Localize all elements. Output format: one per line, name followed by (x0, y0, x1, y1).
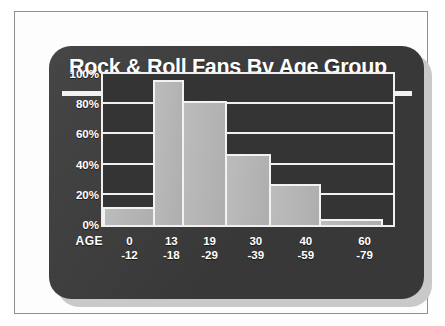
x-axis-title: AGE (55, 234, 103, 248)
y-axis-tick-label: 20% (53, 189, 99, 201)
bar (319, 219, 383, 225)
y-axis-tick-label: 100% (53, 68, 99, 80)
bar (103, 207, 155, 225)
x-category-line-1: 19 (203, 235, 216, 247)
x-category-line-1: 60 (358, 235, 371, 247)
x-category-line-2: -79 (332, 248, 397, 262)
bar (225, 154, 271, 225)
y-axis: 0%20%40%60%80%100% (49, 72, 99, 227)
x-category-line-2: -18 (156, 248, 187, 262)
x-category-line-2: -39 (232, 248, 279, 262)
x-axis-category-label: 30-39 (232, 232, 279, 262)
x-axis-category-label: 60-79 (332, 232, 397, 262)
y-axis-tick-label: 40% (53, 159, 99, 171)
bar (182, 101, 227, 225)
bar (269, 184, 321, 225)
y-axis-tick-label: 0% (53, 219, 99, 231)
x-axis-category-label: 13-18 (156, 232, 187, 262)
y-axis-tick-label: 80% (53, 98, 99, 110)
x-category-line-1: 40 (299, 235, 312, 247)
x-category-line-1: 30 (249, 235, 262, 247)
x-axis-category-label: 40-59 (279, 232, 332, 262)
x-category-line-2: -29 (187, 248, 233, 262)
y-axis-tick-label: 60% (53, 128, 99, 140)
x-category-line-1: 0 (126, 235, 132, 247)
page-frame: Rock & Roll Fans By Age Group 0%20%40%60… (14, 11, 428, 314)
chart-panel: Rock & Roll Fans By Age Group 0%20%40%60… (49, 46, 424, 299)
bar (153, 80, 183, 225)
x-category-line-2: -12 (103, 248, 156, 262)
x-axis-category-label: 19-29 (187, 232, 233, 262)
x-category-line-1: 13 (165, 235, 178, 247)
x-category-line-2: -59 (279, 248, 332, 262)
bar-series (103, 74, 393, 225)
x-axis-category-label: 0-12 (103, 232, 156, 262)
x-axis-category-labels: 0-1213-1819-2930-3940-5960-79 (103, 232, 397, 274)
plot-wrapper (101, 72, 395, 227)
